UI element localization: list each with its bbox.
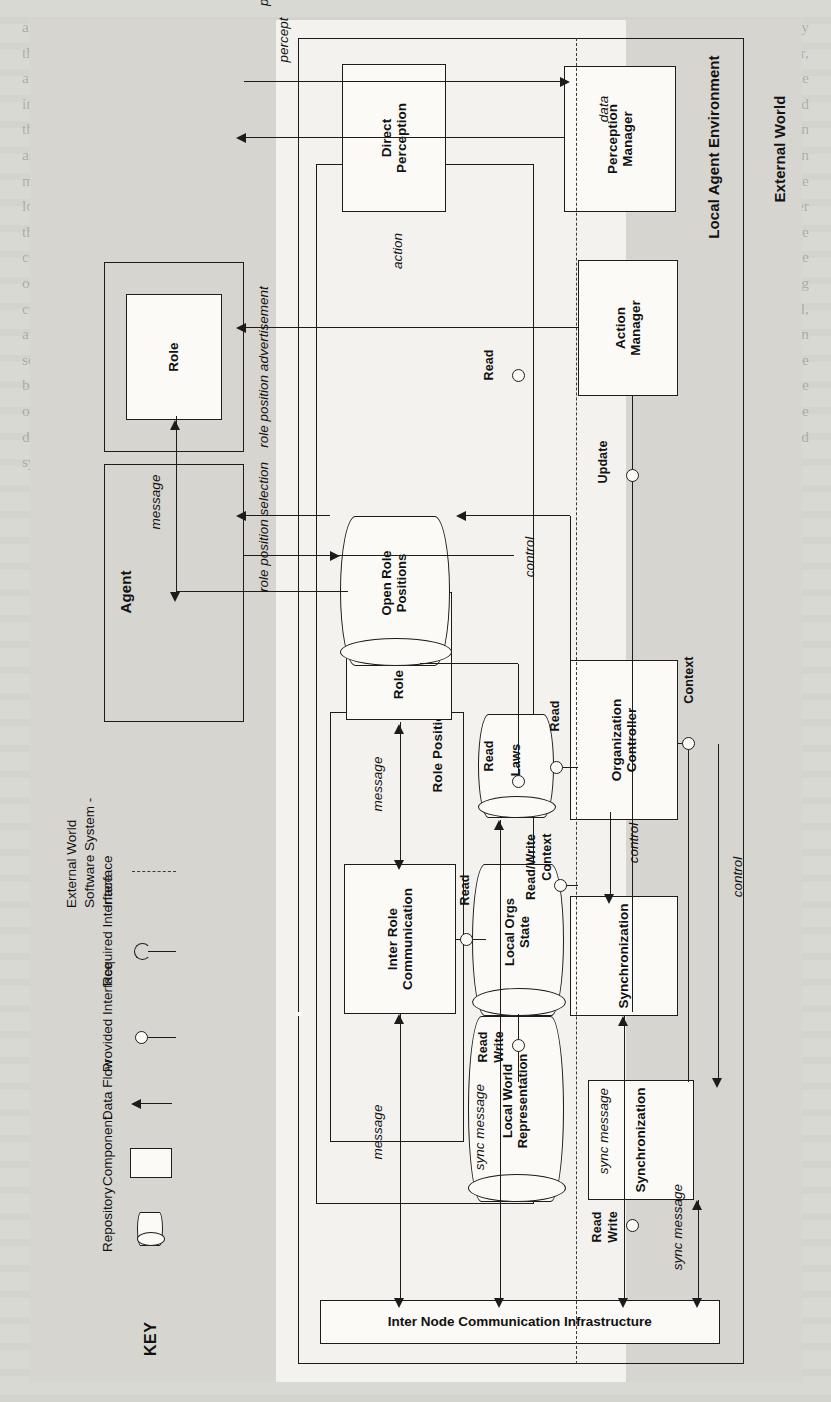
flow-arrow-sync-world-r — [692, 1200, 702, 1210]
flow-arrow-perception-request — [560, 77, 570, 87]
iface-label-rw-orgs-2: Write — [492, 1012, 506, 1082]
component-action-manager-line1: Action — [612, 307, 627, 349]
flow-arrow-advert — [236, 511, 246, 521]
flow-line-control-sync-world-h — [718, 744, 719, 1080]
flow-arrow-innode-l — [394, 1298, 404, 1308]
flow-arrow-control-sync-world — [712, 1078, 722, 1088]
iface-line-update — [632, 396, 633, 1012]
flow-arrow-sync-orgs-l — [618, 1298, 628, 1308]
flow-arrow-rp-to-irc — [394, 860, 404, 870]
flow-label-sync-ctrl: sync message — [472, 1062, 487, 1192]
iface-line-read-rp — [518, 664, 519, 782]
flow-label-message-irc: message — [370, 734, 385, 834]
iface-label-read-laws: Read — [548, 686, 562, 746]
flow-arrow-control-pool — [456, 511, 466, 521]
key-label-interface-line1: Interface — [100, 855, 115, 908]
iface-label-context: Context — [682, 640, 696, 720]
flow-arrow-message-role-l — [170, 592, 180, 602]
component-action-manager-line2: Manager — [628, 300, 643, 356]
flow-label-sync-world: sync message — [670, 1162, 685, 1292]
system-boundary-icon — [132, 871, 176, 872]
flow-arrow-sync-orgs-r — [618, 1016, 628, 1026]
flow-arrow-irc-to-rp — [394, 724, 404, 734]
component-sync-orgs-label: Synchronization — [616, 904, 631, 1009]
flow-line-sync-orgs — [624, 1016, 625, 1300]
iface-line-read-rp-v — [420, 663, 518, 664]
component-direct-perception[interactable]: Direct Perception — [342, 64, 446, 212]
flow-arrow-select — [330, 551, 340, 561]
flow-line-sync-ctrl — [500, 820, 501, 1300]
flow-line-control-sync-orgs — [610, 812, 611, 896]
repo-orp-line2: Positions — [395, 554, 410, 613]
component-orgctrl-line1: Organization — [608, 699, 623, 782]
iface-label-rw-lwr-1: Read — [590, 1192, 604, 1262]
key-label-interface-line2: Software System - — [82, 798, 97, 908]
flow-line-control-pool-h — [570, 516, 571, 660]
flow-line-select — [244, 555, 514, 556]
repo-orp-line1: Open Role — [380, 551, 395, 616]
component-icon — [130, 1148, 172, 1178]
component-inter-role-communication[interactable]: Inter Role Communication — [344, 864, 456, 1014]
repository-icon — [137, 1212, 163, 1246]
component-sync-world-label: Synchronization — [633, 1088, 648, 1193]
component-direct-perception-line2: Perception — [394, 103, 409, 173]
architecture-diagram: KEY Repository Component Data Flow Provi… — [30, 20, 802, 1382]
key-label-interface-line3: External World — [64, 820, 79, 908]
flow-label-action: action — [390, 196, 405, 306]
provided-interface-read-pm[interactable] — [512, 369, 525, 382]
iface-label-read-pm: Read — [482, 330, 496, 400]
component-organization-controller[interactable]: Organization Controller — [570, 660, 678, 820]
external-world-boundary — [576, 38, 577, 1364]
component-inter-node-comm-infrastructure[interactable]: Inter Node Communication Infrastructure — [320, 1300, 720, 1344]
iface-label-read-rp: Read — [482, 716, 496, 796]
flow-label-control-pool: control — [522, 512, 537, 602]
flow-arrow-sync-world-l — [692, 1298, 702, 1308]
component-perception-manager-line2: Manager — [620, 111, 635, 167]
flow-line-message-role — [176, 416, 177, 592]
flow-line-perception-request — [244, 81, 566, 82]
component-action-manager[interactable]: Action Manager — [578, 260, 678, 396]
component-perception-manager[interactable]: Perception Manager — [564, 66, 676, 212]
iface-label-rwctx-2: Context — [540, 802, 554, 912]
provided-interface-rwctx[interactable] — [554, 879, 567, 892]
flow-line-message-irc — [400, 722, 401, 862]
provided-interface-read-laws[interactable] — [550, 761, 563, 774]
flow-label-control-sync-world: control — [730, 832, 745, 922]
provided-interface-read-irc[interactable] — [460, 933, 473, 946]
spacer — [298, 1012, 302, 1016]
flow-arrow-innode-r — [394, 1014, 404, 1024]
flow-line-sync-world — [698, 1200, 699, 1300]
flow-arrow-sync-ctrl-r — [494, 820, 504, 830]
key-label-repository: Repository — [100, 1187, 115, 1252]
component-irc-line2: Communication — [400, 888, 415, 990]
component-synchronization-orgs[interactable]: Synchronization — [570, 896, 678, 1016]
provided-interface-read-rp[interactable] — [512, 775, 525, 788]
flow-label-perception-request: perception request — [256, 0, 271, 60]
flow-label-control-sync-orgs: control — [626, 798, 641, 888]
agent-label: Agent — [118, 502, 135, 682]
flow-line-action — [244, 327, 578, 328]
repository-open-role-positions[interactable]: Open Role Positions — [340, 516, 450, 666]
flow-arrow-message-role-r — [170, 420, 180, 430]
component-direct-perception-line1: Direct — [378, 119, 393, 157]
flow-label-select: role position selection — [256, 412, 271, 642]
flow-arrow-sync-ctrl-l — [494, 1298, 504, 1308]
flow-label-percept: percept — [276, 0, 291, 110]
component-irc-line1: Inter Role — [384, 908, 399, 970]
iface-label-update: Update — [596, 422, 610, 502]
flow-arrow-action — [236, 323, 246, 333]
flow-arrow-control-sync-orgs — [604, 894, 614, 904]
repo-laws-label: Laws — [508, 744, 523, 777]
flow-line-control-pool-v — [464, 515, 570, 516]
provided-interface-rw-orgs[interactable] — [512, 1039, 525, 1052]
key-label-component: Component — [100, 1116, 115, 1186]
provided-interface-update[interactable] — [626, 469, 639, 482]
flow-label-sync-orgs: sync message — [596, 1066, 611, 1196]
component-innode-label: Inter Node Communication Infrastructure — [387, 1314, 651, 1329]
flow-label-data: data — [596, 74, 611, 144]
flow-line-message-innode — [400, 1014, 401, 1300]
flow-label-message-role: message — [148, 442, 163, 562]
repo-los-line1: Local Orgs — [503, 898, 518, 966]
provided-interface-rw-lwr[interactable] — [626, 1219, 639, 1232]
iface-line-context-h — [688, 742, 689, 1082]
